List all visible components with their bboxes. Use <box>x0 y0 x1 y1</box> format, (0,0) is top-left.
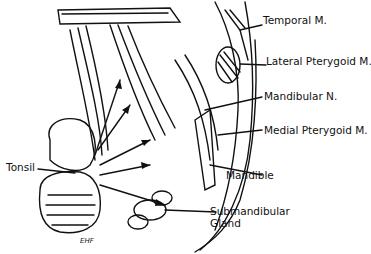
label-lateral-pterygoid: Lateral Pterygoid M. <box>266 56 371 67</box>
artist-signature: EHF <box>80 236 94 247</box>
label-mandible: Mandible <box>226 170 274 181</box>
anatomy-diagram: Temporal M. Lateral Pterygoid M. Mandibu… <box>0 0 371 254</box>
label-submandibular: Submandibular <box>210 206 290 217</box>
label-temporal-muscle: Temporal M. <box>263 15 327 26</box>
label-tonsil: Tonsil <box>6 162 35 173</box>
label-gland: Gland <box>210 218 241 229</box>
label-mandibular-nerve: Mandibular N. <box>264 91 337 102</box>
label-medial-pterygoid: Medial Pterygoid M. <box>264 125 368 136</box>
